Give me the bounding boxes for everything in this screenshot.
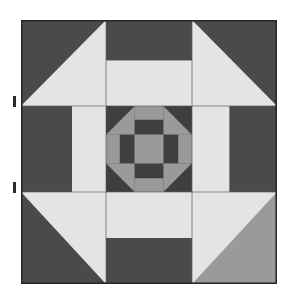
medallion-bar-right-band bbox=[163, 135, 178, 164]
edge-middle-left bbox=[21, 106, 106, 192]
corner-top-left bbox=[21, 20, 106, 106]
medallion-center-square bbox=[135, 135, 164, 164]
edge-marker-upper bbox=[13, 96, 16, 107]
corner-bottom-right bbox=[192, 192, 277, 284]
corner-bottom-left bbox=[21, 192, 106, 284]
edge-marker-lower bbox=[13, 182, 16, 193]
edge-bottom-center-outer-band bbox=[106, 238, 192, 284]
medallion-bar-left-band bbox=[120, 135, 135, 164]
edge-middle-left-outer-band bbox=[21, 106, 72, 192]
quilt-block-canvas bbox=[0, 0, 287, 297]
medallion-bar-top-band bbox=[135, 120, 164, 135]
corner-top-right bbox=[192, 20, 277, 106]
edge-middle-right bbox=[192, 106, 277, 192]
medallion-bar-bottom-band bbox=[135, 163, 164, 178]
edge-middle-right-outer-band bbox=[229, 106, 277, 192]
edge-bottom-center bbox=[106, 192, 192, 284]
quilt-block-svg bbox=[0, 0, 287, 297]
edge-top-center bbox=[106, 20, 192, 106]
edge-top-center-outer-band bbox=[106, 20, 192, 60]
center-medallion bbox=[106, 106, 192, 192]
